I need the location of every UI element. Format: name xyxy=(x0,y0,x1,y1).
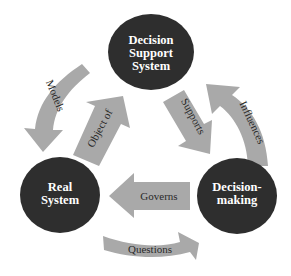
arrow-governs: Governs xyxy=(109,173,190,218)
decision-cycle-diagram: Models Object of Supports Influences Gov… xyxy=(0,0,291,276)
arrow-label-governs: Governs xyxy=(140,190,177,202)
arrow-supports: Supports xyxy=(163,90,212,154)
arrow-object-of: Object of xyxy=(73,96,130,166)
arrow-influences: Influences xyxy=(206,84,268,166)
node-label-dss-line2: Support xyxy=(129,46,174,60)
node-label-dss-line3: System xyxy=(132,59,171,73)
node-label-decision-line2: making xyxy=(217,193,258,207)
node-decision-making: Decision- making xyxy=(197,158,277,234)
node-real-system: Real System xyxy=(20,157,100,233)
node-label-dss-line1: Decision xyxy=(128,33,173,47)
node-label-real-line1: Real xyxy=(48,180,73,194)
arrow-label-questions: Questions xyxy=(128,243,172,255)
node-decision-support-system: Decision Support System xyxy=(108,14,194,90)
node-label-real-line2: System xyxy=(41,193,80,207)
arrow-models: Models xyxy=(24,64,90,152)
node-label-decision-line1: Decision- xyxy=(212,180,261,194)
arrow-questions: Questions xyxy=(103,232,199,260)
